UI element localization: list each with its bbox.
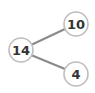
part-node-1: 10 <box>64 12 88 36</box>
part-label-1: 10 <box>67 17 85 32</box>
number-bond-diagram: 14 10 4 <box>0 0 95 93</box>
connector-line-whole-to-part-1 <box>31 29 65 45</box>
whole-label: 14 <box>12 43 30 58</box>
connector-line-whole-to-part-2 <box>31 55 65 69</box>
part-node-2: 4 <box>64 62 88 86</box>
part-label-2: 4 <box>71 67 80 82</box>
whole-node: 14 <box>9 38 33 62</box>
